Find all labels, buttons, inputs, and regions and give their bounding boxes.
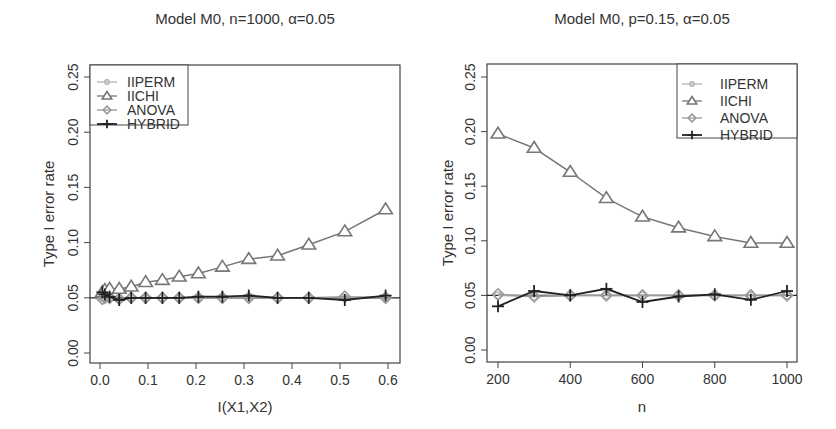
y-tick-label: 0.10 xyxy=(462,227,478,254)
y-tick-label: 0.00 xyxy=(462,336,478,363)
left-chart: Model M0, n=1000, α=0.050.000.050.100.15… xyxy=(40,10,400,415)
x-tick-label: 200 xyxy=(486,371,510,387)
plus-marker-icon xyxy=(709,288,721,300)
legend: IIPERMIICHIANOVAHYBRID xyxy=(677,64,797,143)
chart-title: Model M0, n=1000, α=0.05 xyxy=(155,10,335,27)
triangle-marker-icon xyxy=(600,192,614,203)
legend: IIPERMIICHIANOVAHYBRID xyxy=(90,65,188,132)
legend-label: HYBRID xyxy=(127,116,180,132)
triangle-marker-icon xyxy=(379,203,393,214)
plus-marker-icon xyxy=(173,292,185,304)
plus-marker-icon xyxy=(192,291,204,303)
plus-marker-icon xyxy=(673,290,685,302)
series-iichi xyxy=(96,203,393,297)
x-tick-label: 1000 xyxy=(771,371,802,387)
y-tick-label: 0.20 xyxy=(65,118,81,145)
plus-marker-icon xyxy=(216,291,228,303)
plus-marker-icon xyxy=(564,289,576,301)
y-tick-label: 0.15 xyxy=(462,172,478,199)
x-axis-label: I(X1,X2) xyxy=(217,398,272,415)
triangle-marker-icon xyxy=(338,225,352,236)
triangle-marker-icon xyxy=(563,166,577,177)
x-tick-label: 0.4 xyxy=(282,372,302,388)
x-tick-label: 0.5 xyxy=(330,372,350,388)
figure: Model M0, n=1000, α=0.050.000.050.100.15… xyxy=(0,0,836,429)
triangle-marker-icon xyxy=(491,127,505,138)
x-tick-label: 0.1 xyxy=(138,372,158,388)
legend-label: IICHI xyxy=(720,93,752,109)
y-tick-label: 0.25 xyxy=(65,63,81,90)
y-tick-label: 0.25 xyxy=(462,63,478,90)
series-iichi xyxy=(491,127,794,247)
triangle-marker-icon xyxy=(636,210,650,221)
plus-marker-icon xyxy=(492,300,504,312)
y-axis-label: Type I error rate xyxy=(40,161,57,268)
series-line xyxy=(498,134,787,243)
y-tick-label: 0.10 xyxy=(65,229,81,256)
triangle-marker-icon xyxy=(780,236,794,247)
x-axis-label: n xyxy=(638,398,646,415)
plus-marker-icon xyxy=(140,292,152,304)
x-tick-label: 0.3 xyxy=(234,372,254,388)
plus-marker-icon xyxy=(303,292,315,304)
legend-label: IIPERM xyxy=(720,76,768,92)
x-tick-label: 0.6 xyxy=(378,372,398,388)
plus-marker-icon xyxy=(156,292,168,304)
x-tick-label: 600 xyxy=(631,371,655,387)
x-tick-label: 0.0 xyxy=(90,372,110,388)
x-tick-label: 800 xyxy=(703,371,727,387)
legend-label: ANOVA xyxy=(720,110,769,126)
y-tick-label: 0.05 xyxy=(65,284,81,311)
chart-title: Model M0, p=0.15, α=0.05 xyxy=(554,10,729,27)
y-tick-label: 0.05 xyxy=(462,282,478,309)
y-tick-label: 0.20 xyxy=(462,118,478,145)
plus-marker-icon xyxy=(272,292,284,304)
y-tick-label: 0.15 xyxy=(65,174,81,201)
right-chart: Model M0, p=0.15, α=0.050.000.050.100.15… xyxy=(439,10,803,415)
x-tick-label: 400 xyxy=(559,371,583,387)
y-axis-label: Type I error rate xyxy=(439,160,456,267)
y-tick-label: 0.00 xyxy=(65,339,81,366)
legend-label: HYBRID xyxy=(720,127,773,143)
x-tick-label: 0.2 xyxy=(186,372,206,388)
